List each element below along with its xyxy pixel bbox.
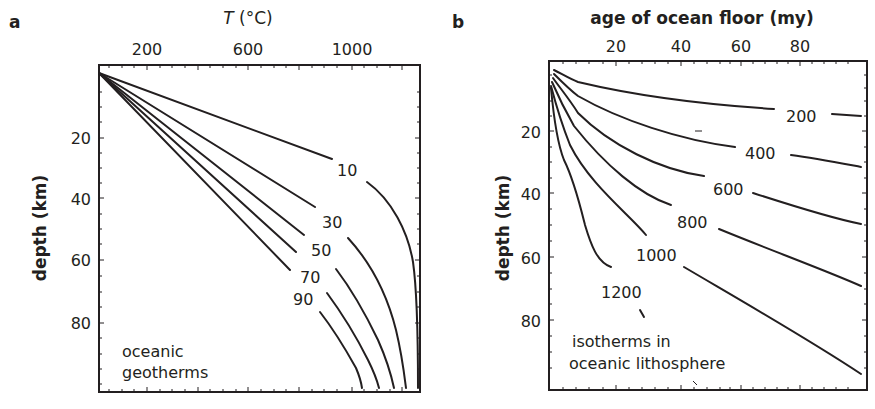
geotherm-70-lower [327, 293, 379, 388]
isotherm-1200-stub [640, 310, 644, 317]
x-tick-label: 80 [790, 37, 810, 56]
isotherm-labels: 200 400 600 800 1000 1200 [601, 107, 817, 302]
y-tick-label: 60 [521, 249, 541, 268]
geotherm-50-lower [336, 269, 394, 388]
curve-label: 50 [311, 241, 331, 260]
panel-b: b age of ocean floor (my) 20 40 60 80 de… [452, 8, 867, 390]
y-tick-label: 40 [71, 190, 91, 209]
geotherm-90 [99, 73, 290, 270]
curve-label: 70 [300, 268, 320, 287]
y-tick-label: 80 [521, 312, 541, 331]
panel-a-note-line1: oceanic [122, 342, 184, 361]
x-axis-title-unit: (°C) [234, 8, 273, 28]
geotherm-30-lower [348, 238, 406, 388]
x-axis-title-b: age of ocean floor (my) [590, 8, 813, 28]
y-axis-title-b: depth (km) [493, 175, 513, 282]
curve-label: 1000 [636, 246, 677, 265]
geotherm-50 [99, 73, 304, 235]
y-tick-label: 60 [71, 251, 91, 270]
x-tick-label: 1000 [332, 40, 373, 59]
panel-letter-b: b [452, 12, 464, 32]
geotherm-90-lower [320, 312, 362, 388]
x-tick-label: 40 [671, 37, 691, 56]
curve-label: 800 [677, 213, 708, 232]
panel-a-note-line2: geotherms [122, 363, 208, 382]
curve-label: 400 [745, 144, 776, 163]
x-axis-title-a: T (°C) [223, 8, 272, 28]
x-tick-label: 600 [233, 40, 264, 59]
panel-b-note-line1: isotherms in [572, 332, 671, 351]
y-axis-title-a: depth (km) [30, 175, 50, 282]
y-tick-label: 80 [71, 314, 91, 333]
x-tick-label: 60 [731, 37, 751, 56]
figure: a T (°C) 200 600 1000 depth (km) 20 40 6… [0, 0, 875, 409]
geotherm-10-lower [367, 182, 418, 388]
curve-label: 10 [337, 161, 357, 180]
panel-a: a T (°C) 200 600 1000 depth (km) 20 40 6… [9, 8, 420, 392]
geotherm-curves [99, 73, 418, 388]
curve-label: 30 [322, 213, 342, 232]
isotherm-400-right [791, 155, 861, 167]
curve-label: 90 [293, 290, 313, 309]
stray-mark [693, 381, 697, 385]
y-tick-label: 20 [71, 129, 91, 148]
x-tick-label: 20 [606, 37, 626, 56]
curve-label: 1200 [601, 283, 642, 302]
y-tick-label: 20 [521, 123, 541, 142]
panel-letter-a: a [9, 12, 20, 32]
geotherm-70 [99, 73, 296, 252]
y-minor-ticks-b [549, 75, 867, 368]
isotherm-600-right [753, 193, 861, 224]
isotherm-800-right [719, 229, 861, 286]
y-tick-label: 40 [521, 185, 541, 204]
isotherm-200 [554, 70, 774, 109]
x-tick-label: 200 [132, 40, 163, 59]
isotherm-200-right [832, 114, 861, 116]
curve-label: 600 [713, 180, 744, 199]
panel-b-note-line2: oceanic lithosphere [569, 354, 725, 373]
curve-label: 200 [786, 107, 817, 126]
